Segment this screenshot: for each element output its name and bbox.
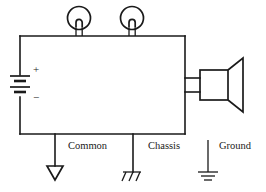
battery-negative-sign: − xyxy=(33,92,39,103)
earth-ground-label: Ground xyxy=(219,141,251,152)
chassis-ground-label: Chassis xyxy=(148,141,180,152)
label-layer: + − Common Chassis Ground xyxy=(0,0,266,192)
circuit-diagram-screenshot: + − Common Chassis Ground xyxy=(0,0,266,192)
battery-positive-sign: + xyxy=(33,64,39,75)
common-ground-label: Common xyxy=(68,141,107,152)
